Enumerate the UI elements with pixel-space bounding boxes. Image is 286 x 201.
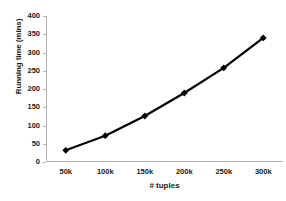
y-axis-tick-label: 100 <box>16 122 40 130</box>
y-axis-tick-label: 350 <box>16 30 40 38</box>
y-axis-tick-mark <box>43 107 46 108</box>
y-axis-tick-label: 200 <box>16 85 40 93</box>
data-point-marker <box>62 147 69 154</box>
y-axis-tick-label: 50 <box>16 140 40 148</box>
y-axis-tick-mark <box>43 144 46 145</box>
chart-container: Running time (mins) 05010015020025030035… <box>0 0 286 201</box>
data-series-line <box>46 16 283 162</box>
y-axis-tick-mark <box>43 53 46 54</box>
plot-area <box>46 16 283 162</box>
y-axis-tick-mark <box>43 71 46 72</box>
y-axis-tick-label: 400 <box>16 12 40 20</box>
y-axis-tick-label: 300 <box>16 49 40 57</box>
x-axis-title: # tuples <box>46 181 283 190</box>
y-axis-tick-label: 150 <box>16 103 40 111</box>
x-axis-tick-labels: 50k100k150k200k250k300k <box>46 167 283 179</box>
x-axis-tick-label: 150k <box>125 167 165 176</box>
x-axis-tick-label: 250k <box>204 167 244 176</box>
x-axis-tick-label: 100k <box>85 167 125 176</box>
y-axis-tick-mark <box>43 162 46 163</box>
x-axis-tick-label: 300k <box>243 167 283 176</box>
y-axis-tick-mark <box>43 89 46 90</box>
y-axis-tick-mark <box>43 126 46 127</box>
y-axis-tick-mark <box>43 34 46 35</box>
y-axis-tick-mark <box>43 16 46 17</box>
x-axis-tick-label: 50k <box>46 167 86 176</box>
y-axis-tick-label: 0 <box>16 158 40 166</box>
x-axis-tick-label: 200k <box>164 167 204 176</box>
y-axis-tick-label: 250 <box>16 67 40 75</box>
y-axis-tick-labels: 050100150200250300350400 <box>16 10 40 164</box>
